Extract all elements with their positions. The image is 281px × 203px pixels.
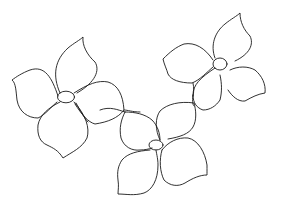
left-flower bbox=[12, 37, 140, 158]
flowers-svg bbox=[0, 0, 281, 203]
bottom-flower bbox=[100, 102, 207, 194]
flower-line-drawing bbox=[0, 0, 281, 203]
right-flower bbox=[163, 13, 265, 110]
